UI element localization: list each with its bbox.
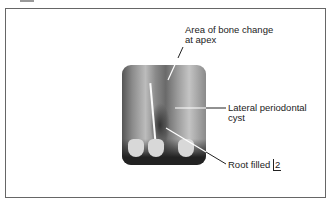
annotation-root-filled: Root filled 2 [228, 160, 281, 170]
annotation-text: Root filled [228, 159, 273, 170]
tooth-notation: 2 [273, 159, 281, 171]
annotation-bone-change: Area of bone change at apex [185, 25, 273, 45]
annotation-lateral-cyst: Lateral periodontal cyst [228, 103, 307, 123]
annotation-line: at apex [185, 35, 273, 45]
annotation-line: cyst [228, 113, 307, 123]
